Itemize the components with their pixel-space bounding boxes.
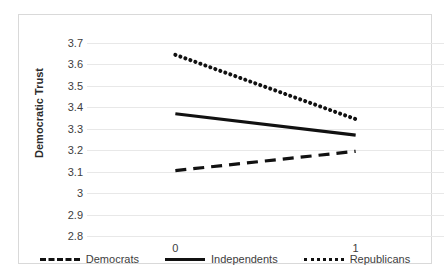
y-axis-tick-label: 3.2 <box>47 145 83 156</box>
series-line-republicans <box>175 55 355 119</box>
legend-item-label: Independents <box>211 253 278 265</box>
y-axis-tick-label: 3.3 <box>47 123 83 134</box>
y-axis-tick-label: 3.7 <box>47 38 83 49</box>
legend-item[interactable]: Independents <box>165 253 278 265</box>
y-axis-title: Democratic Trust <box>33 53 45 173</box>
legend-swatch-dotted-line-icon <box>304 255 344 263</box>
y-axis-tick-label: 2.9 <box>47 209 83 220</box>
legend-item[interactable]: Republicans <box>304 253 411 265</box>
legend-swatch-solid-line-icon <box>165 255 205 263</box>
legend-swatch-dashed-line-icon <box>40 255 80 263</box>
series-layer <box>87 43 444 236</box>
chart-plot-frame: Democratic Trust 3.73.63.53.43.33.23.132… <box>18 14 432 264</box>
y-axis-tick-label: 3.6 <box>47 59 83 70</box>
legend-item-label: Democrats <box>86 253 139 265</box>
legend-item[interactable]: Democrats <box>40 253 139 265</box>
y-axis-tick-label: 3.5 <box>47 80 83 91</box>
y-axis-tick-labels: 3.73.63.53.43.33.23.132.92.8 <box>45 43 83 236</box>
legend-item-label: Republicans <box>350 253 411 265</box>
y-axis-tick-label: 3 <box>47 188 83 199</box>
plot-area <box>87 43 444 236</box>
chart-legend: DemocratsIndependentsRepublicans <box>18 248 432 270</box>
y-axis-tick-label: 2.8 <box>47 231 83 242</box>
y-axis-tick-label: 3.4 <box>47 102 83 113</box>
series-line-independents <box>175 114 355 135</box>
series-line-democrats <box>175 151 355 170</box>
y-axis-tick-label: 3.1 <box>47 166 83 177</box>
gridline <box>87 236 444 237</box>
chart-figure: Democratic Trust 3.73.63.53.43.33.23.132… <box>0 0 446 279</box>
